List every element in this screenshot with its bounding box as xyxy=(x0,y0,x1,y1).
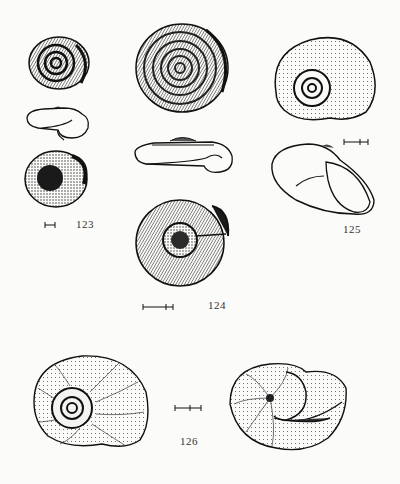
figure-125-apical-view xyxy=(270,32,380,124)
figure-124-side-view xyxy=(132,132,236,178)
figure-number-126: 126 xyxy=(180,435,198,447)
scale-bar-124 xyxy=(142,304,174,310)
figure-126-apertural-view xyxy=(226,358,350,454)
figure-126-apical-view xyxy=(30,352,152,452)
figure-number-124: 124 xyxy=(208,299,226,311)
figure-123-umbilical-view xyxy=(22,148,92,210)
figure-number-123: 123 xyxy=(76,218,94,230)
figure-125-apertural-view xyxy=(268,140,378,218)
figure-number-125: 125 xyxy=(343,223,361,235)
scale-bar-126 xyxy=(174,405,202,411)
figure-124-umbilical-view xyxy=(134,196,234,288)
figure-123-side-view xyxy=(24,102,92,142)
figure-124-apical-view xyxy=(134,22,234,114)
figure-123-apical-view xyxy=(26,33,94,93)
scale-bar-123 xyxy=(44,222,56,228)
